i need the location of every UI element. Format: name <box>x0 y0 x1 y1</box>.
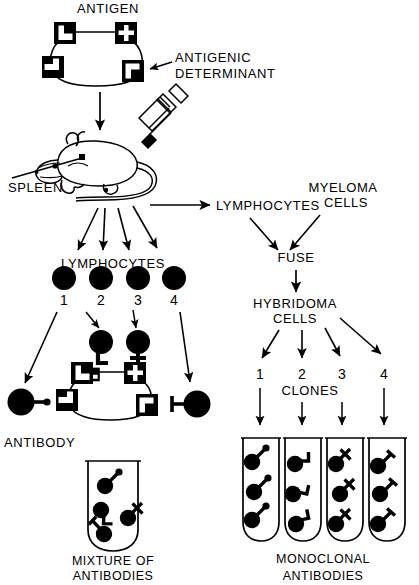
spleen-label: SPLEEN <box>8 180 63 195</box>
determinant-callout-arrow <box>150 62 172 69</box>
myeloma-label-line1: MYELOMA <box>308 180 377 195</box>
lymphocyte-cell-3 <box>126 266 150 290</box>
mixture-antibodies <box>88 468 142 542</box>
antibody-icon-right <box>172 391 211 418</box>
arrow-to-receptor-cell-3 <box>133 310 136 328</box>
test-tube-icon-mixture <box>85 461 143 551</box>
arrow-to-receptor-cell-2 <box>86 312 99 328</box>
arrow-cell4-to-antibody <box>180 312 190 382</box>
arrows-spleen-to-lymphocytes <box>78 206 157 250</box>
myeloma-label-line2: CELLS <box>324 195 368 210</box>
arrow-cell1-to-antibody <box>25 312 57 383</box>
syringe-icon <box>139 84 188 148</box>
arrow-lymphocytes-to-fuse <box>250 218 278 250</box>
antigenic-determinant-3 <box>42 56 64 78</box>
lymphocyte-cell-4 <box>162 266 186 290</box>
lymphocyte-number-2: 2 <box>97 292 105 308</box>
antigen-mid-determinant-1 <box>71 362 93 384</box>
lymphocytes-left-label: LYMPHOCYTES <box>61 256 165 271</box>
lymphocytes-right-label: LYMPHOCYTES <box>216 198 320 213</box>
antibody-icon-left <box>8 389 51 416</box>
clone-number-2: 2 <box>298 366 306 382</box>
antigen-icon-top <box>42 22 144 86</box>
antigenic-determinant-1 <box>54 22 76 44</box>
clone-number-4: 4 <box>380 366 388 382</box>
antigen-mid-determinant-4 <box>136 394 158 416</box>
clones-label: CLONES <box>281 383 338 398</box>
diagram-canvas: ANTIGEN ANTIGENIC DETERMINANT <box>0 0 419 585</box>
monoclonal-test-tube-1 <box>241 438 281 541</box>
lymphocyte-number-3: 3 <box>134 292 142 308</box>
monoclonal-test-tube-3 <box>325 438 365 541</box>
antigen-icon-middle <box>56 362 158 420</box>
antigenic-determinant-4 <box>122 60 144 82</box>
hybridoma-label-line1: HYBRIDOMA <box>253 296 337 311</box>
clone-number-1: 1 <box>256 366 264 382</box>
clone-number-3: 3 <box>338 366 346 382</box>
hybridoma-label-line2: CELLS <box>273 311 317 326</box>
lymphocyte-number-1: 1 <box>60 292 68 308</box>
mixture-caption-line2: ANTIBODIES <box>73 569 154 583</box>
monoclonal-antibody-diagram: ANTIGEN ANTIGENIC DETERMINANT <box>0 0 419 585</box>
monoclonal-test-tube-4 <box>367 438 407 541</box>
fuse-label: FUSE <box>277 250 314 265</box>
antigenic-determinant-label-line1: ANTIGENIC <box>175 50 251 65</box>
antigen-mid-determinant-3 <box>56 389 78 411</box>
antigen-mid-determinant-2 <box>124 362 146 384</box>
antigen-title: ANTIGEN <box>77 1 139 16</box>
antigenic-determinant-label-line2: DETERMINANT <box>175 66 276 81</box>
mixture-caption-line1: MIXTURE OF <box>72 554 154 568</box>
antigenic-determinant-2 <box>115 22 137 44</box>
monoclonal-caption-line1: MONOCLONAL <box>276 552 370 566</box>
lymphocyte-cell-2 <box>89 266 113 290</box>
lymphocyte-number-4: 4 <box>170 292 178 308</box>
antibody-label: ANTIBODY <box>4 435 75 450</box>
arrow-myeloma-to-fuse <box>290 215 320 250</box>
monoclonal-caption-line2: ANTIBODIES <box>283 569 364 583</box>
monoclonal-test-tube-2 <box>283 438 323 541</box>
lymphocyte-cell-1 <box>52 266 76 290</box>
